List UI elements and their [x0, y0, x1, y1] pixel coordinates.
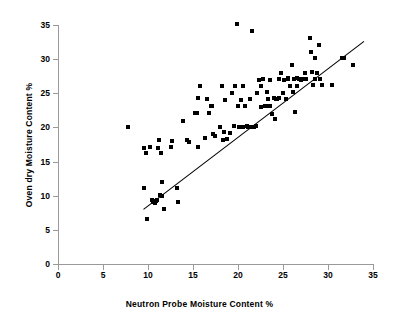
data-point [155, 198, 159, 202]
data-point [351, 63, 355, 67]
data-point [233, 84, 237, 88]
data-point [207, 111, 211, 115]
data-point [313, 77, 317, 81]
data-point [225, 137, 229, 141]
data-point [169, 145, 173, 149]
data-point [259, 84, 263, 88]
data-point [218, 125, 222, 129]
scatter-chart: 0510152025303505101520253035 Neutron Pro… [0, 0, 399, 323]
data-point [203, 136, 207, 140]
data-point [198, 84, 202, 88]
data-point [290, 63, 294, 67]
data-point [246, 125, 250, 129]
data-point [156, 146, 160, 150]
data-point [266, 97, 270, 101]
data-point [237, 125, 241, 129]
data-point [176, 200, 180, 204]
data-point [309, 50, 313, 54]
data-point [313, 56, 317, 60]
data-point [157, 138, 161, 142]
data-point [311, 83, 315, 87]
data-point [286, 77, 290, 81]
data-point [213, 134, 217, 138]
data-point [308, 36, 312, 40]
data-point [342, 56, 346, 60]
data-point [304, 77, 308, 81]
data-point [223, 98, 227, 102]
data-point [250, 29, 254, 33]
data-point [144, 151, 148, 155]
y-axis-title: Oven dry Moisture Content % [24, 35, 34, 255]
data-point [230, 91, 234, 95]
data-point [259, 105, 263, 109]
data-point [277, 96, 281, 100]
data-point [160, 194, 164, 198]
x-axis-title: Neutron Probe Moisture Content % [0, 299, 399, 309]
data-point [148, 145, 152, 149]
data-point [265, 90, 269, 94]
data-point [257, 78, 261, 82]
data-point [320, 83, 324, 87]
data-point [281, 91, 285, 95]
data-point [254, 124, 258, 128]
scatter-points [0, 0, 399, 323]
data-point [295, 84, 299, 88]
data-point [310, 70, 314, 74]
data-point [205, 97, 209, 101]
data-point [196, 145, 200, 149]
data-point [142, 186, 146, 190]
data-point [221, 138, 225, 142]
data-point [318, 77, 322, 81]
data-point [261, 77, 265, 81]
data-point [220, 84, 224, 88]
data-point [248, 97, 252, 101]
data-point [126, 125, 130, 129]
data-point [303, 71, 307, 75]
data-point [241, 84, 245, 88]
data-point [236, 104, 240, 108]
data-point [288, 84, 292, 88]
data-point [195, 111, 199, 115]
data-point [284, 97, 288, 101]
data-point [142, 146, 146, 150]
data-point [159, 151, 163, 155]
data-point [210, 104, 214, 108]
data-point [317, 43, 321, 47]
data-point [222, 130, 226, 134]
data-point [181, 119, 185, 123]
data-point [162, 207, 166, 211]
data-point [255, 91, 259, 95]
data-point [315, 71, 319, 75]
data-point [330, 83, 334, 87]
data-point [293, 110, 297, 114]
data-point [187, 140, 191, 144]
data-point [235, 22, 239, 26]
data-point [160, 180, 164, 184]
data-point [268, 78, 272, 82]
data-point [175, 186, 179, 190]
data-point [145, 217, 149, 221]
data-point [268, 104, 272, 108]
data-point [243, 104, 247, 108]
data-point [277, 77, 281, 81]
data-point [196, 96, 200, 100]
data-point [232, 124, 236, 128]
data-point [170, 139, 174, 143]
data-point [291, 90, 295, 94]
data-point [239, 98, 243, 102]
data-point [273, 117, 277, 121]
data-point [270, 112, 274, 116]
data-point [279, 71, 283, 75]
data-point [228, 131, 232, 135]
